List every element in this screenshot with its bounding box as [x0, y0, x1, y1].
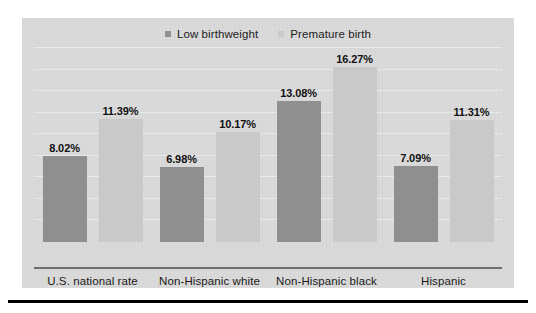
- bar-column: 10.17%: [216, 48, 260, 242]
- bar[interactable]: [160, 167, 204, 242]
- bar-column: 7.09%: [394, 48, 438, 242]
- chart-panel: Low birthweight Premature birth 8.02%11.…: [22, 18, 514, 288]
- bar-group: 6.98%10.17%: [151, 48, 268, 242]
- bar[interactable]: [216, 132, 260, 242]
- bar-column: 13.08%: [277, 48, 321, 242]
- x-axis-line: [34, 267, 502, 269]
- bar-column: 16.27%: [333, 48, 377, 242]
- category-label: Non-Hispanic white: [151, 275, 268, 287]
- bar-group: 7.09%11.31%: [385, 48, 502, 242]
- bar-value-label: 11.39%: [102, 105, 138, 117]
- bar-group: 13.08%16.27%: [268, 48, 385, 242]
- bar-value-label: 11.31%: [453, 106, 489, 118]
- bar-value-label: 8.02%: [49, 142, 80, 154]
- page-bottom-rule: [8, 300, 528, 303]
- bar-column: 11.31%: [450, 48, 494, 242]
- bar-value-label: 10.17%: [219, 118, 256, 130]
- bar-column: 8.02%: [43, 48, 87, 242]
- plot-area: 8.02%11.39%6.98%10.17%13.08%16.27%7.09%1…: [34, 48, 502, 242]
- chart-legend: Low birthweight Premature birth: [22, 28, 514, 40]
- bar-groups: 8.02%11.39%6.98%10.17%13.08%16.27%7.09%1…: [34, 48, 502, 242]
- category-axis-labels: U.S. national rateNon-Hispanic whiteNon-…: [34, 270, 502, 292]
- legend-label-low-birthweight: Low birthweight: [177, 28, 258, 40]
- bar-column: 11.39%: [99, 48, 143, 242]
- bar-value-label: 7.09%: [400, 152, 431, 164]
- bar-value-label: 6.98%: [166, 153, 197, 165]
- bar-value-label: 13.08%: [280, 87, 317, 99]
- bar[interactable]: [450, 120, 494, 242]
- legend-swatch-premature-birth: [278, 31, 284, 37]
- bar[interactable]: [394, 166, 438, 242]
- bar-value-label: 16.27%: [336, 53, 373, 65]
- legend-label-premature-birth: Premature birth: [290, 28, 371, 40]
- category-label: Hispanic: [385, 275, 502, 287]
- legend-item-low-birthweight[interactable]: Low birthweight: [165, 28, 258, 40]
- category-label: Non-Hispanic black: [268, 275, 385, 287]
- bar-group: 8.02%11.39%: [34, 48, 151, 242]
- bar[interactable]: [277, 101, 321, 242]
- bar[interactable]: [43, 156, 87, 242]
- category-label: U.S. national rate: [34, 275, 151, 287]
- legend-swatch-low-birthweight: [165, 31, 171, 37]
- bar[interactable]: [333, 67, 377, 242]
- legend-item-premature-birth[interactable]: Premature birth: [278, 28, 371, 40]
- bar-column: 6.98%: [160, 48, 204, 242]
- bar[interactable]: [99, 119, 143, 242]
